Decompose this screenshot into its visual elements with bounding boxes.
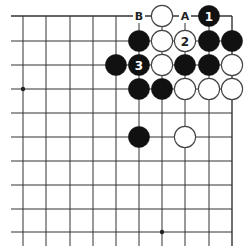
- white-stone: [174, 126, 195, 147]
- white-stone: [221, 54, 242, 75]
- black-stone: [128, 78, 149, 99]
- go-board: BA 123: [0, 0, 249, 252]
- move-number-label: 2: [181, 35, 189, 49]
- white-stone: [151, 54, 172, 75]
- white-stone: [198, 78, 219, 99]
- white-stone: [151, 5, 172, 26]
- black-stone: [174, 54, 195, 75]
- move-number-label: 3: [135, 59, 143, 73]
- black-stone: [105, 54, 126, 75]
- black-stone: [198, 54, 219, 75]
- black-stone: [198, 30, 219, 51]
- black-stone: [151, 78, 172, 99]
- stones: 123: [105, 5, 242, 147]
- star-point: [160, 230, 164, 234]
- white-stone: [151, 30, 172, 51]
- point-label-b: B: [135, 10, 143, 23]
- black-stone: [221, 30, 242, 51]
- grid-lines: [11, 16, 232, 246]
- point-label-a: A: [181, 10, 190, 23]
- black-stone: [128, 30, 149, 51]
- black-stone: [128, 126, 149, 147]
- white-stone: [174, 78, 195, 99]
- white-stone: [221, 78, 242, 99]
- move-number-label: 1: [205, 10, 213, 24]
- star-point: [21, 87, 25, 91]
